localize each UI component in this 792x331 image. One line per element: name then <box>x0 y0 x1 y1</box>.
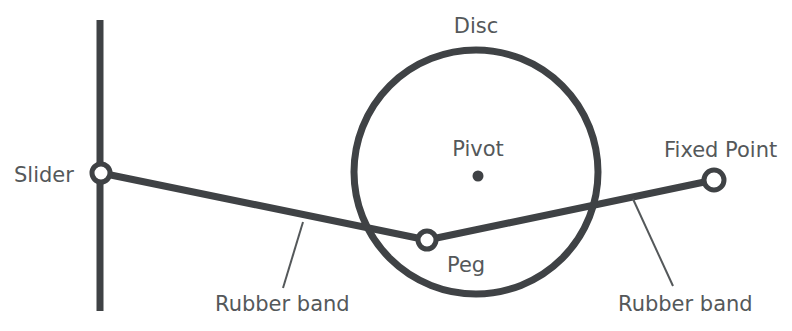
label-peg: Peg <box>447 253 485 277</box>
label-rubber-band-left: Rubber band <box>215 292 350 316</box>
leader-line-right <box>633 199 673 286</box>
rubber-band-left-segment <box>101 173 427 240</box>
mechanism-diagram-canvas: Slider Disc Pivot Peg Fixed Point Rubber… <box>0 0 792 331</box>
peg-ring <box>418 231 436 249</box>
rubber-band-right-segment <box>427 180 714 240</box>
leader-line-left <box>283 222 303 288</box>
pivot-dot <box>473 171 484 182</box>
fixed-point-ring <box>704 170 724 190</box>
diagram-svg: Slider Disc Pivot Peg Fixed Point Rubber… <box>0 0 792 331</box>
label-pivot: Pivot <box>452 137 504 161</box>
label-disc: Disc <box>454 14 499 38</box>
label-slider: Slider <box>14 163 74 187</box>
label-rubber-band-right: Rubber band <box>618 292 753 316</box>
label-fixed-point: Fixed Point <box>664 138 777 162</box>
slider-ring <box>92 164 110 182</box>
